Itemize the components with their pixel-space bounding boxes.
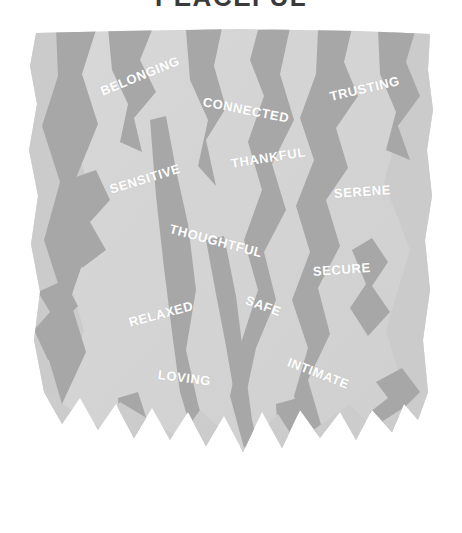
stone-texture	[0, 0, 462, 533]
cracked-stone-illustration	[0, 0, 462, 533]
poster-canvas: PEACEFUL	[0, 0, 462, 533]
